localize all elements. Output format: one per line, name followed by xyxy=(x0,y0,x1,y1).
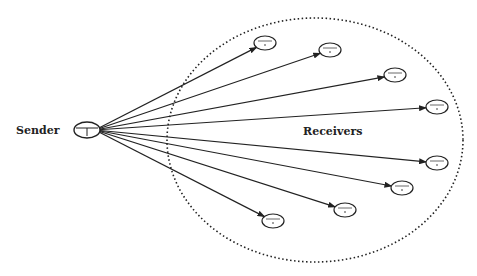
receiver-node-r2 xyxy=(319,43,341,57)
receiver-node-r6 xyxy=(391,181,413,195)
receivers-label: Receivers xyxy=(303,125,362,138)
sender-node xyxy=(74,122,100,138)
receiver-node-r7 xyxy=(334,203,356,217)
receiver-node-r8 xyxy=(262,214,284,228)
multicast-edges xyxy=(95,47,426,216)
sender-label: Sender xyxy=(16,124,59,137)
multicast-diagram xyxy=(0,0,477,276)
edge-r2 xyxy=(95,53,320,130)
receiver-node-r4 xyxy=(426,100,448,114)
edge-r4 xyxy=(95,108,426,130)
edge-r8 xyxy=(95,130,264,217)
receiver-node-r5 xyxy=(426,156,448,170)
edge-r1 xyxy=(95,47,256,130)
edge-r3 xyxy=(95,77,384,130)
receiver-node-r3 xyxy=(384,68,406,82)
receiver-node-r1 xyxy=(254,36,276,50)
